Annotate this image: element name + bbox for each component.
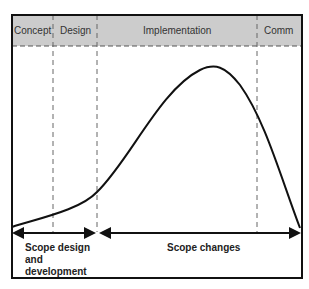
diagram-frame — [12, 15, 302, 278]
arrowhead-left — [12, 227, 24, 239]
scope-design-label-line1: Scope design — [25, 242, 90, 254]
scope-design-label-line2: and — [25, 254, 90, 266]
phase-label-design: Design — [60, 25, 91, 36]
arrowhead-right — [84, 227, 96, 239]
scope-changes-label: Scope changes — [167, 242, 240, 254]
phase-label-implementation: Implementation — [143, 25, 211, 36]
arrowhead-right — [289, 227, 301, 239]
arrowhead-left — [99, 227, 111, 239]
phase-label-concept: Concept — [14, 25, 51, 36]
scope-design-label-line3: development — [25, 266, 90, 278]
scope-design-label: Scope design and development — [25, 242, 90, 278]
phase-label-comm: Comm — [264, 25, 293, 36]
